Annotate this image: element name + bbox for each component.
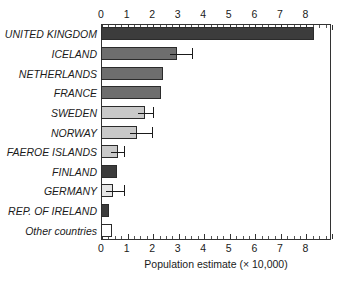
x-tick-label-top: 2	[149, 8, 155, 20]
axis-tick-minor	[172, 236, 173, 239]
axis-tick-minor	[294, 236, 295, 239]
x-tick-label-bottom: 1	[124, 242, 130, 254]
axis-tick-minor	[319, 236, 320, 239]
axis-tick-major	[306, 234, 307, 239]
x-tick-label-top: 7	[277, 8, 283, 20]
axis-tick-minor	[300, 236, 301, 239]
error-bar-cap	[124, 185, 125, 196]
axis-tick-minor	[211, 236, 212, 239]
axis-tick-major	[255, 234, 256, 239]
category-label: ICELAND	[0, 48, 97, 60]
x-tick-label-top: 3	[175, 8, 181, 20]
axis-tick-minor	[140, 236, 141, 239]
x-tick-label-top: 4	[200, 8, 206, 20]
axis-tick-major	[179, 234, 180, 239]
x-tick-label-bottom: 0	[98, 242, 104, 254]
category-label: UNITED KINGDOM	[0, 28, 97, 40]
category-label: FINLAND	[0, 166, 97, 178]
error-bar-line	[130, 133, 152, 134]
error-bar-cap	[124, 146, 125, 157]
x-tick-label-bottom: 5	[226, 242, 232, 254]
category-label: FAEROE ISLANDS	[0, 146, 97, 158]
axis-tick-major	[230, 234, 231, 239]
bar	[101, 67, 163, 80]
bar	[101, 27, 314, 40]
axis-tick-minor	[313, 236, 314, 239]
x-tick-label-top: 0	[98, 8, 104, 20]
axis-tick-minor	[287, 236, 288, 239]
bar	[101, 47, 177, 60]
x-tick-label-top: 1	[124, 8, 130, 20]
axis-tick-minor	[319, 25, 320, 28]
x-tick-label-top: 5	[226, 8, 232, 20]
error-bar-cap	[192, 48, 193, 59]
x-tick-label-bottom: 6	[251, 242, 257, 254]
x-tick-label-bottom: 4	[200, 242, 206, 254]
axis-tick-minor	[121, 236, 122, 239]
category-label: Other countries	[0, 225, 97, 237]
x-axis-title: Population estimate (× 10,000)	[101, 258, 331, 270]
error-bar-cap	[153, 107, 154, 118]
axis-tick-minor	[262, 236, 263, 239]
axis-tick-minor	[115, 236, 116, 239]
axis-tick-minor	[160, 236, 161, 239]
axis-tick-minor	[185, 236, 186, 239]
axis-tick-minor	[275, 236, 276, 239]
error-bar-cap	[152, 127, 153, 138]
x-tick-label-bottom: 7	[277, 242, 283, 254]
category-label: NORWAY	[0, 127, 97, 139]
category-label: REP. OF IRELAND	[0, 205, 97, 217]
axis-tick-major	[332, 234, 333, 239]
error-bar-line	[106, 191, 125, 192]
x-tick-label-bottom: 3	[175, 242, 181, 254]
x-tick-label-top: 6	[251, 8, 257, 20]
axis-tick-major	[281, 234, 282, 239]
axis-tick-minor	[198, 236, 199, 239]
axis-tick-minor	[191, 236, 192, 239]
axis-tick-minor	[326, 25, 327, 28]
x-tick-label-top: 8	[303, 8, 309, 20]
axis-tick-minor	[166, 236, 167, 239]
axis-tick-minor	[223, 236, 224, 239]
axis-tick-minor	[236, 236, 237, 239]
axis-tick-major	[128, 234, 129, 239]
axis-tick-minor	[147, 236, 148, 239]
category-label: SWEDEN	[0, 107, 97, 119]
x-tick-label-bottom: 8	[303, 242, 309, 254]
axis-tick-minor	[268, 236, 269, 239]
error-bar-line	[138, 113, 153, 114]
bar	[101, 86, 161, 99]
axis-tick-minor	[217, 236, 218, 239]
axis-tick-minor	[243, 236, 244, 239]
axis-tick-major	[153, 234, 154, 239]
bar	[101, 204, 109, 217]
bar	[101, 165, 117, 178]
axis-tick-major	[204, 234, 205, 239]
category-label: FRANCE	[0, 87, 97, 99]
bar	[101, 224, 112, 237]
axis-tick-minor	[326, 236, 327, 239]
category-label: GERMANY	[0, 185, 97, 197]
error-bar-line	[111, 152, 124, 153]
axis-tick-major	[332, 25, 333, 30]
error-bar-line	[170, 54, 192, 55]
x-tick-label-bottom: 2	[149, 242, 155, 254]
category-label: NETHERLANDS	[0, 68, 97, 80]
axis-tick-minor	[249, 236, 250, 239]
axis-tick-minor	[134, 236, 135, 239]
chart-figure: 001122334455667788UNITED KINGDOMICELANDN…	[0, 0, 349, 285]
